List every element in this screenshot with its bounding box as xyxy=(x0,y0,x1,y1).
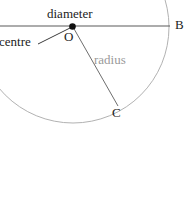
point-b-label: B xyxy=(175,18,184,31)
geometry-diagram-canvas: diameter centre O B radius C xyxy=(0,0,192,214)
point-c-label: C xyxy=(112,106,121,119)
centre-label: centre xyxy=(0,35,31,48)
radius-label: radius xyxy=(94,53,126,66)
circle-diagram-svg xyxy=(0,0,192,214)
diameter-label: diameter xyxy=(47,7,92,20)
centre-point-label: O xyxy=(64,30,73,43)
